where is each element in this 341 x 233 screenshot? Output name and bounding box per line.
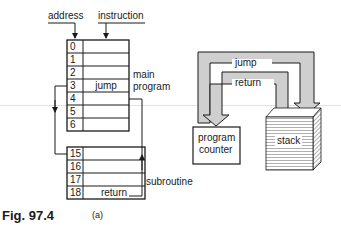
address-label: address [48, 10, 84, 21]
main-row-address-cell: 0 [70, 41, 76, 52]
sub-row-instruction-cell: return [101, 187, 127, 198]
program-counter-label-line2: counter [199, 144, 233, 155]
stack-box: stack [266, 108, 321, 170]
main-row-address-cell: 1 [70, 54, 76, 65]
figure-caption: Fig. 97.4 [2, 208, 55, 223]
instruction-label: instruction [98, 10, 144, 21]
sub-row-address-cell: 16 [70, 161, 82, 172]
subroutine-label: subroutine [146, 176, 193, 187]
main-program-label-line1: main [133, 69, 155, 80]
sub-row-address-cell: 18 [70, 187, 82, 198]
jump-label: jump [234, 57, 257, 68]
main-program-table: 0123jump456 [67, 40, 129, 131]
stack-label: stack [277, 135, 301, 146]
sub-row-address-cell: 17 [70, 174, 82, 185]
figure-canvas: address instruction 0123jump456 main pro… [0, 0, 341, 233]
main-row-address-cell: 3 [70, 80, 76, 91]
subroutine-table: 15161718return [67, 147, 145, 199]
main-row-address-cell: 6 [70, 119, 76, 130]
part-label: (a) [92, 210, 103, 220]
sub-row-address-cell: 15 [70, 148, 82, 159]
program-counter-label-line1: program [198, 132, 235, 143]
main-row-instruction-cell: jump [94, 80, 117, 91]
main-row-address-cell: 4 [70, 93, 76, 104]
main-row-address-cell: 5 [70, 106, 76, 117]
main-program-label-line2: program [133, 81, 170, 92]
jump-flow-line [55, 86, 67, 154]
return-label: return [235, 77, 261, 88]
main-row-address-cell: 2 [70, 67, 76, 78]
